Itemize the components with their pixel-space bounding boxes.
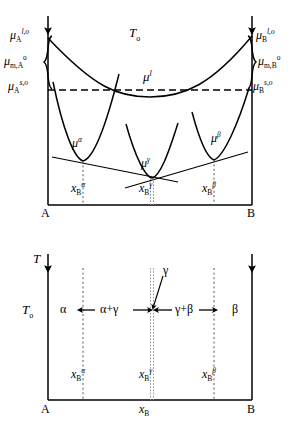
gamma-pointer-label: γ	[163, 264, 168, 276]
gamma-curve-label: μγ	[141, 156, 150, 169]
upper-tick-gamma: xBγ	[139, 181, 152, 197]
upper-tick-alpha: xBα	[71, 181, 85, 197]
mu-melting-B-label: μm,Bo	[258, 54, 280, 70]
mu-B-solid-standard-label: μBs,o	[253, 79, 272, 95]
region-label-alpha-gamma: α+γ	[100, 303, 118, 315]
lower-axis-end-left: A	[41, 403, 50, 415]
mu-B-liquid-standard-label: μBl,o	[256, 28, 275, 44]
upper-temperature-label: To	[129, 26, 140, 43]
beta-phase-curve	[192, 88, 249, 160]
lower-x-axis-label: xB	[139, 403, 149, 418]
beta-curve-label: μβ	[211, 131, 221, 144]
lower-tick-gamma: xBγ	[139, 367, 152, 383]
mu-A-liquid-standard-label: μAl,o	[10, 28, 29, 44]
upper-temperature-sub: o	[136, 34, 140, 43]
liquid-curve-label: μl	[143, 70, 152, 83]
region-label-alpha: α	[60, 303, 66, 315]
lower-y-axis-label: T	[33, 252, 40, 265]
lower-temperature-label: To	[22, 303, 33, 320]
liquid-curve	[48, 36, 252, 97]
alpha-curve-label: μα	[72, 136, 82, 149]
mu-A-solid-standard-label: μAs,o	[8, 79, 28, 95]
gamma-phase-curve	[126, 123, 178, 178]
liquid-curve-sup: l	[150, 69, 152, 78]
upper-tick-beta: xBβ	[202, 181, 216, 197]
upper-axis-end-right: B	[247, 207, 255, 219]
alpha-phase-curve	[53, 74, 119, 161]
mu-melting-A-label: μm,Ao	[4, 54, 27, 70]
lower-tick-alpha: xBα	[71, 367, 85, 383]
lower-tick-beta: xBβ	[202, 367, 216, 383]
gamma-pointer-leader	[153, 276, 163, 308]
region-label-gamma-beta: γ+β	[175, 303, 193, 315]
figure-canvas: To μl μAl,o μm,Ao μAs,o μBl,o μm,Bo μBs,…	[0, 0, 301, 434]
lower-temperature-sub: o	[29, 311, 33, 320]
lower-axis-end-right: B	[247, 403, 255, 415]
region-label-beta: β	[232, 303, 238, 315]
upper-axis-end-left: A	[41, 207, 50, 219]
